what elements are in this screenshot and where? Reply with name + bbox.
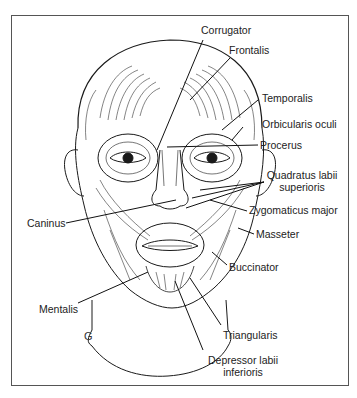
label-temporalis: Temporalis xyxy=(262,92,313,104)
label-orbicularis-oculi: Orbicularis oculi xyxy=(262,118,337,130)
label-depressor-line2: inferioris xyxy=(203,366,283,378)
label-zygomaticus-major: Zygomaticus major xyxy=(249,204,338,216)
label-depressor-line1: Depressor labii xyxy=(203,354,283,366)
label-quadratus-labii-superioris: Quadratus labii superioris xyxy=(257,169,347,193)
label-procerus: Procerus xyxy=(260,139,302,151)
corner-mark: G xyxy=(84,330,93,342)
label-frontalis: Frontalis xyxy=(229,44,269,56)
label-quadratus-line2: superioris xyxy=(257,181,347,193)
label-buccinator: Buccinator xyxy=(229,261,279,273)
label-depressor-labii-inferioris: Depressor labii inferioris xyxy=(203,354,283,378)
label-quadratus-line1: Quadratus labii xyxy=(257,169,347,181)
label-mentalis: Mentalis xyxy=(39,303,78,315)
face-muscles-illustration: G xyxy=(0,0,357,398)
label-masseter: Masseter xyxy=(256,228,299,240)
label-corrugator: Corrugator xyxy=(201,24,251,36)
label-caninus: Caninus xyxy=(27,217,66,229)
label-triangularis: Triangularis xyxy=(223,329,277,341)
